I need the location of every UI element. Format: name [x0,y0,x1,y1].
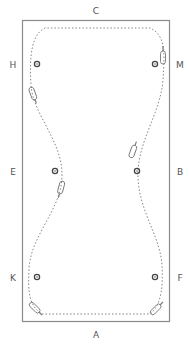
horse-icon [28,301,44,317]
marker-dot-icon [34,61,39,66]
marker-dot-icon [52,168,57,173]
letter-a: A [93,330,100,340]
marker-dot-icon [134,168,139,173]
letter-f: F [177,273,182,283]
dotted-path [29,28,164,314]
arena-border [23,21,170,322]
arena-diagram: C A H E K M B F [0,0,189,348]
marker-dot-icon [34,274,39,279]
letter-e: E [10,167,16,177]
letter-k: K [10,273,17,283]
marker-dot-icon [152,61,157,66]
marker-dot-icon [152,274,157,279]
letter-h: H [10,60,17,70]
horse-icon [28,87,39,105]
letter-m: M [176,60,184,70]
horse-icon [161,46,166,64]
letter-c: C [93,6,99,16]
horse-icon [149,300,165,316]
horse-icon [128,141,139,159]
letter-b: B [177,167,183,177]
